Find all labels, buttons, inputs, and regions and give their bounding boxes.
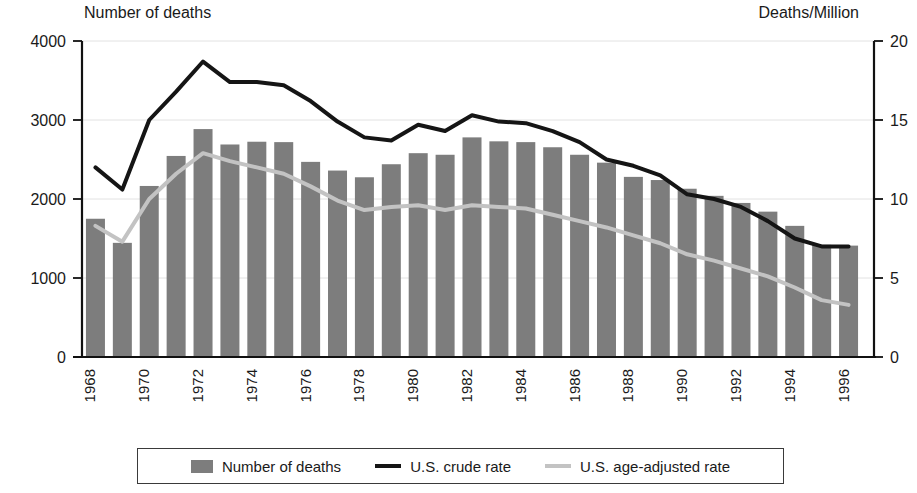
bar-1988 <box>624 177 643 357</box>
x-tick-1978: 1978 <box>350 369 367 402</box>
bar-1993 <box>758 212 777 357</box>
bar-1972 <box>194 129 213 357</box>
bars-series <box>86 129 858 357</box>
right-tick-0: 0 <box>890 349 899 366</box>
bar-1979 <box>382 164 401 357</box>
chart-legend: Number of deaths U.S. crude rate U.S. ag… <box>137 448 784 484</box>
x-axis-ticks: 1968197019721974197619781980198219841986… <box>81 369 851 402</box>
bar-1973 <box>220 144 239 357</box>
bar-swatch-icon <box>191 460 213 473</box>
bar-1969 <box>113 243 132 357</box>
bar-1986 <box>570 155 589 357</box>
crude-line-swatch-icon <box>375 464 401 468</box>
x-tick-1986: 1986 <box>566 369 583 402</box>
x-tick-1980: 1980 <box>404 369 421 402</box>
right-tick-15: 15 <box>890 112 908 129</box>
bar-1984 <box>516 142 535 357</box>
legend-label-adjusted: U.S. age-adjusted rate <box>580 458 730 475</box>
bar-1974 <box>247 142 266 357</box>
left-tick-2000: 2000 <box>30 191 66 208</box>
bar-1996 <box>839 246 858 357</box>
x-tick-1990: 1990 <box>673 369 690 402</box>
right-axis-ticks: 05101520 <box>874 33 908 366</box>
bar-1981 <box>436 155 455 357</box>
bar-1989 <box>651 180 670 357</box>
x-tick-1994: 1994 <box>781 369 798 402</box>
left-tick-4000: 4000 <box>30 33 66 50</box>
bar-1978 <box>355 177 374 357</box>
adjusted-line-swatch-icon <box>545 464 571 468</box>
x-tick-1970: 1970 <box>135 369 152 402</box>
x-tick-1988: 1988 <box>619 369 636 402</box>
left-axis-ticks: 01000200030004000 <box>30 33 82 366</box>
bar-1983 <box>489 141 508 357</box>
right-tick-10: 10 <box>890 191 908 208</box>
x-tick-1976: 1976 <box>297 369 314 402</box>
legend-item-crude-rate: U.S. crude rate <box>375 458 511 475</box>
legend-label-crude: U.S. crude rate <box>410 458 511 475</box>
plot-area: 01000200030004000 05101520 1968197019721… <box>0 0 917 445</box>
x-tick-1982: 1982 <box>458 369 475 402</box>
bar-1971 <box>167 156 186 357</box>
right-tick-20: 20 <box>890 33 908 50</box>
bar-1980 <box>409 153 428 357</box>
bar-1992 <box>731 203 750 357</box>
x-tick-1974: 1974 <box>243 369 260 402</box>
bar-1991 <box>705 196 724 357</box>
bar-1985 <box>543 147 562 357</box>
bar-1990 <box>678 189 697 357</box>
x-tick-1996: 1996 <box>835 369 852 402</box>
legend-item-age-adjusted-rate: U.S. age-adjusted rate <box>545 458 730 475</box>
x-tick-1968: 1968 <box>81 369 98 402</box>
bar-1982 <box>463 137 482 357</box>
right-tick-5: 5 <box>890 270 899 287</box>
x-tick-1972: 1972 <box>189 369 206 402</box>
x-tick-1984: 1984 <box>512 369 529 402</box>
chart-figure: Number of deaths Deaths/Million 01000200… <box>0 0 917 493</box>
legend-label-bars: Number of deaths <box>222 458 341 475</box>
legend-item-number-of-deaths: Number of deaths <box>191 458 341 475</box>
left-tick-0: 0 <box>57 349 66 366</box>
left-tick-1000: 1000 <box>30 270 66 287</box>
x-tick-1992: 1992 <box>727 369 744 402</box>
bar-1968 <box>86 219 105 357</box>
left-tick-3000: 3000 <box>30 112 66 129</box>
bar-1987 <box>597 163 616 357</box>
